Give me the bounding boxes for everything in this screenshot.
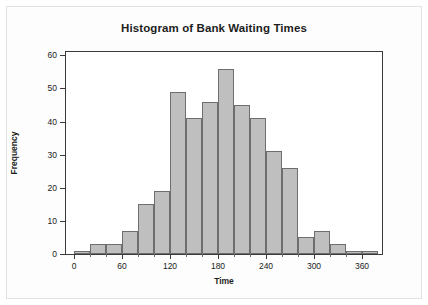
- x-axis-minor-tick: [90, 254, 91, 257]
- histogram-bar: [138, 204, 154, 254]
- x-axis-minor-tick: [282, 254, 283, 257]
- plot-area: 0102030405060 060120180240300360: [65, 51, 383, 255]
- histogram-figure: Histogram of Bank Waiting Times Frequenc…: [0, 0, 428, 305]
- histogram-bar: [186, 118, 202, 254]
- histogram-bar: [90, 244, 106, 254]
- y-axis-tick: [60, 55, 66, 56]
- x-axis-tick: [74, 254, 75, 259]
- page-title: Histogram of Bank Waiting Times: [0, 22, 428, 34]
- x-axis-tick: [266, 254, 267, 259]
- bars-layer: [66, 52, 382, 254]
- x-axis-tick-label: 240: [259, 261, 273, 271]
- histogram-bar: [202, 102, 218, 254]
- y-axis-tick: [60, 155, 66, 156]
- x-axis-tick-label: 120: [163, 261, 177, 271]
- y-axis-tick-label: 10: [48, 216, 57, 226]
- y-axis-tick: [60, 221, 66, 222]
- x-axis-tick: [218, 254, 219, 259]
- x-axis-minor-tick: [186, 254, 187, 257]
- y-axis-tick: [60, 188, 66, 189]
- histogram-bar: [218, 69, 234, 254]
- x-axis-minor-tick: [298, 254, 299, 257]
- y-axis-tick-label: 50: [48, 83, 57, 93]
- histogram-bar: [122, 231, 138, 254]
- x-axis-tick-label: 60: [117, 261, 126, 271]
- y-axis-tick-label: 30: [48, 150, 57, 160]
- histogram-bar: [74, 251, 90, 254]
- y-axis-tick: [60, 88, 66, 89]
- histogram-bar: [346, 251, 362, 254]
- histogram-bar: [154, 191, 170, 254]
- x-axis-tick: [314, 254, 315, 259]
- x-axis-minor-tick: [154, 254, 155, 257]
- x-axis-minor-tick: [346, 254, 347, 257]
- x-axis-tick-label: 360: [355, 261, 369, 271]
- y-axis-tick: [60, 254, 66, 255]
- histogram-bar: [106, 244, 122, 254]
- x-axis-minor-tick: [234, 254, 235, 257]
- y-axis-tick-label: 20: [48, 183, 57, 193]
- x-axis-tick-label: 0: [72, 261, 77, 271]
- x-axis-tick-label: 300: [307, 261, 321, 271]
- y-axis-title: Frequency: [9, 132, 19, 175]
- x-axis-minor-tick: [106, 254, 107, 257]
- y-axis-tick-label: 0: [52, 249, 57, 259]
- y-axis-tick: [60, 122, 66, 123]
- histogram-bar: [250, 118, 266, 254]
- histogram-bar: [298, 237, 314, 254]
- histogram-bar: [266, 151, 282, 254]
- histogram-bar: [362, 251, 378, 254]
- x-axis-minor-tick: [202, 254, 203, 257]
- histogram-bar: [234, 105, 250, 254]
- x-axis-tick-label: 180: [211, 261, 225, 271]
- x-axis-tick: [122, 254, 123, 259]
- y-axis-tick-label: 60: [48, 50, 57, 60]
- histogram-bar: [282, 168, 298, 254]
- x-axis-minor-tick: [330, 254, 331, 257]
- x-axis-title: Time: [65, 276, 383, 286]
- x-axis-tick: [170, 254, 171, 259]
- x-axis-tick: [362, 254, 363, 259]
- histogram-bar: [330, 244, 346, 254]
- x-axis-minor-tick: [138, 254, 139, 257]
- x-axis-minor-tick: [250, 254, 251, 257]
- histogram-bar: [170, 92, 186, 254]
- y-axis-tick-label: 40: [48, 117, 57, 127]
- histogram-bar: [314, 231, 330, 254]
